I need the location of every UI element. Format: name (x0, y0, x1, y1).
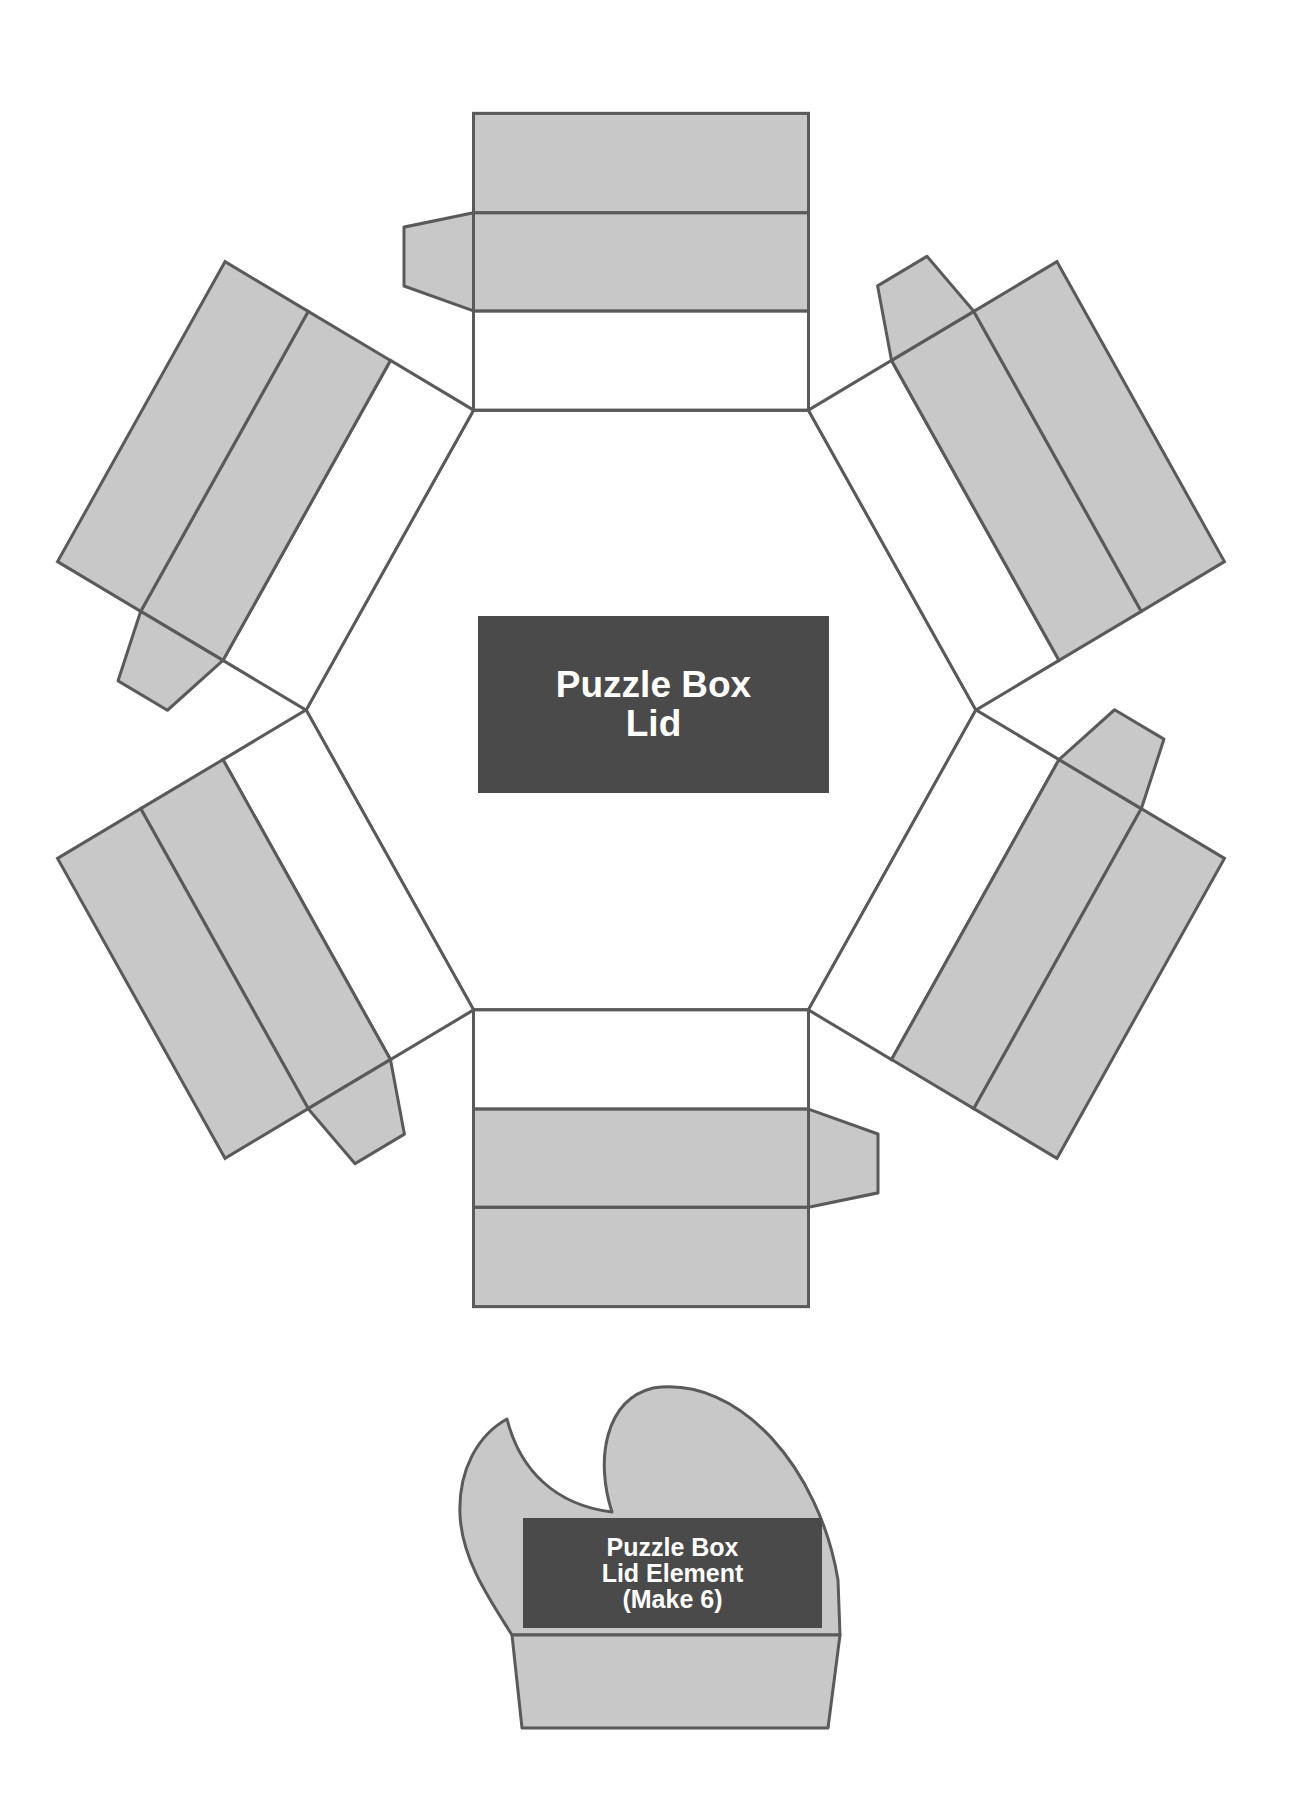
lid-element-flap (512, 1635, 840, 1728)
element-label-line2: Lid Element (602, 1560, 744, 1586)
lid-label-line2: Lid (626, 705, 681, 744)
lid-label: Puzzle Box Lid (478, 616, 829, 793)
side-panel-bottom (474, 1010, 879, 1307)
side-panel-top (404, 113, 809, 410)
lid-label-line1: Puzzle Box (556, 666, 751, 705)
lid-element-label: Puzzle Box Lid Element (Make 6) (523, 1518, 822, 1628)
element-label-line1: Puzzle Box (607, 1534, 739, 1560)
element-label-line3: (Make 6) (622, 1586, 722, 1612)
